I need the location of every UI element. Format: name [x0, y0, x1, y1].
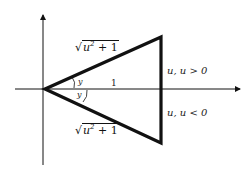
angle-arc-upper: [72, 77, 75, 88]
label-hyp-lower: √u2 + 1: [75, 123, 119, 136]
diagram-canvas: [0, 0, 250, 175]
label-side-lower: u, u < 0: [167, 108, 207, 118]
angle-arc-lower: [83, 90, 87, 102]
label-angle-upper: y: [78, 78, 83, 86]
label-base: 1: [111, 79, 117, 88]
label-angle-lower: y: [77, 91, 82, 99]
label-side-upper: u, u > 0: [167, 66, 207, 76]
label-hyp-upper: √u2 + 1: [75, 40, 119, 53]
